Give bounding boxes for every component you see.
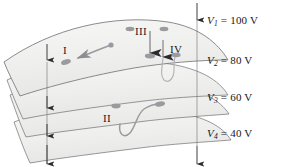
voltage-value-v2: 80 <box>230 54 241 66</box>
voltage-unit-v1: V <box>250 14 258 26</box>
voltage-label-v2: V2 = 80 V <box>207 54 253 68</box>
voltage-symbol-v3: V <box>207 91 214 103</box>
voltage-subscript-v3: 3 <box>214 96 218 105</box>
path-label-iv: IV <box>170 43 182 55</box>
voltage-symbol-v1: V <box>207 14 214 26</box>
voltage-label-v3: V3 = 60 V <box>207 91 253 105</box>
path-label-iii: III <box>135 25 147 37</box>
voltage-symbol-v2: V <box>207 54 214 66</box>
voltage-value-v3: 60 <box>230 91 241 103</box>
voltage-subscript-v4: 4 <box>214 132 218 141</box>
voltage-unit-v2: V <box>244 54 252 66</box>
path-label-i: I <box>63 44 67 56</box>
voltage-equals-v3: = <box>221 91 227 103</box>
voltage-label-v4: V4 = 40 V <box>207 127 253 141</box>
voltage-unit-v4: V <box>244 127 252 139</box>
equipotential-surfaces-figure: V1 = 100 V V2 = 80 V V3 = 60 V V4 = 40 V… <box>0 0 290 167</box>
voltage-equals-v1: = <box>221 14 227 26</box>
voltage-subscript-v1: 1 <box>214 19 218 28</box>
voltage-label-v1: V1 = 100 V <box>207 14 258 28</box>
voltage-value-v1: 100 <box>230 14 247 26</box>
voltage-subscript-v2: 2 <box>214 59 218 68</box>
voltage-value-v4: 40 <box>230 127 241 139</box>
path-label-ii: II <box>103 112 111 124</box>
voltage-symbol-v4: V <box>207 127 214 139</box>
voltage-equals-v2: = <box>221 54 227 66</box>
voltage-equals-v4: = <box>221 127 227 139</box>
voltage-unit-v3: V <box>244 91 252 103</box>
